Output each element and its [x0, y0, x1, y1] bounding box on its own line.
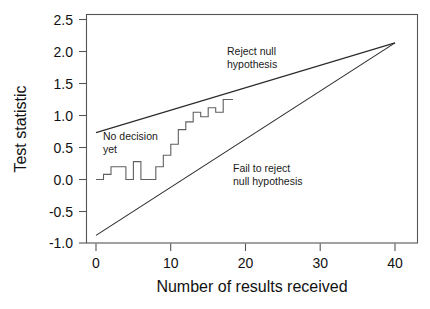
y-tick-label: -0.5 — [49, 204, 73, 220]
y-axis-title: Test statistic — [12, 85, 29, 172]
sequential-analysis-chart: 2.5 2.0 1.5 1.0 0.5 0.0 -0.5 -1.0 0 10 2… — [0, 0, 430, 309]
x-axis-tick-labels: 0 10 20 30 40 — [92, 255, 403, 271]
no-decision-annotation-line-1: No decision — [103, 130, 158, 142]
no-decision-annotation-line-2: yet — [103, 143, 117, 155]
y-tick-label: 2.5 — [54, 12, 74, 28]
y-tick-label: -1.0 — [49, 235, 73, 251]
figure-container: 2.5 2.0 1.5 1.0 0.5 0.0 -0.5 -1.0 0 10 2… — [0, 0, 430, 309]
x-axis-title: Number of results received — [156, 278, 347, 295]
fail-to-reject-annotation-line-1: Fail to reject — [233, 162, 290, 174]
y-tick-label: 0.5 — [54, 140, 74, 156]
x-tick-label: 10 — [163, 255, 179, 271]
reject-null-annotation-line-2: hypothesis — [227, 58, 277, 70]
fail-to-reject-annotation-line-2: null hypothesis — [233, 175, 302, 187]
x-axis-ticks — [96, 244, 395, 252]
y-tick-label: 0.0 — [54, 172, 74, 188]
reject-null-annotation: Reject null hypothesis — [227, 45, 277, 70]
x-tick-label: 30 — [312, 255, 328, 271]
y-tick-label: 1.0 — [54, 108, 74, 124]
fail-to-reject-annotation: Fail to reject null hypothesis — [233, 162, 302, 187]
x-tick-label: 20 — [238, 255, 254, 271]
y-axis-ticks — [79, 20, 87, 244]
y-tick-label: 1.5 — [54, 76, 74, 92]
x-tick-label: 40 — [387, 255, 403, 271]
reject-null-annotation-line-1: Reject null — [227, 45, 276, 57]
no-decision-annotation: No decision yet — [103, 130, 158, 155]
x-tick-label: 0 — [92, 255, 100, 271]
y-tick-label: 2.0 — [54, 44, 74, 60]
y-axis-tick-labels: 2.5 2.0 1.5 1.0 0.5 0.0 -0.5 -1.0 — [49, 12, 73, 252]
